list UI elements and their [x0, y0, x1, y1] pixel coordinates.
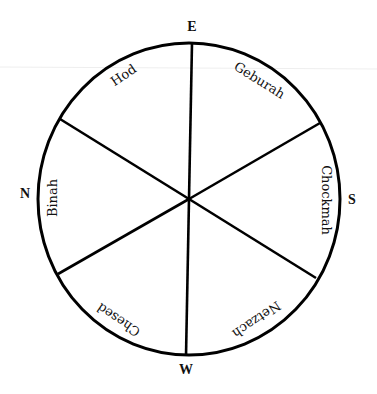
- scan-artifact-line: [0, 67, 377, 69]
- sector-label-geburah: Geburah: [231, 59, 288, 102]
- direction-east: E: [187, 19, 196, 34]
- direction-south: S: [348, 192, 356, 207]
- sector-label-chesed: Chesed: [94, 300, 143, 340]
- spoke-top: [189, 43, 192, 199]
- spoke-lower-left: [58, 199, 189, 274]
- sector-label-binah: Binah: [45, 178, 60, 217]
- spoke-bottom: [186, 199, 189, 356]
- spoke-lower-right: [189, 199, 316, 278]
- spoke-upper-right: [189, 123, 320, 199]
- compass-wheel-diagram: E S W N Hod Geburah Chockmah Netzach Che…: [0, 0, 377, 394]
- sector-label-netzach: Netzach: [229, 298, 283, 341]
- sector-label-chockmah: Chockmah: [319, 165, 334, 235]
- spoke-upper-left: [60, 119, 189, 199]
- direction-west: W: [179, 362, 193, 377]
- direction-north: N: [20, 186, 30, 201]
